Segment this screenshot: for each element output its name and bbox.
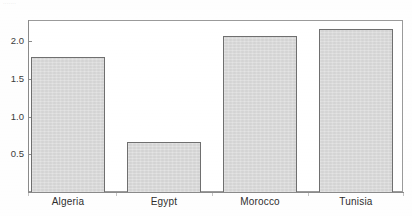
x-axis-tick-label: Morocco	[212, 196, 308, 207]
x-axis-separator-tick	[212, 193, 213, 196]
x-axis-tick-label: Egypt	[116, 196, 212, 207]
x-axis-separator-tick	[308, 193, 309, 196]
chart-figure: ······· 2.01.51.00.5 AlgeriaEgyptMorocco…	[0, 0, 412, 216]
y-axis-tick-label: 2.0	[0, 35, 24, 46]
y-axis-line	[28, 20, 29, 193]
bar-texture	[224, 37, 296, 192]
x-axis-separator-tick	[116, 193, 117, 196]
bar	[319, 29, 393, 192]
y-axis-tick-label: 1.5	[0, 73, 24, 84]
bar-texture	[32, 58, 104, 192]
y-axis-tick-label: 1.0	[0, 111, 24, 122]
bar	[127, 142, 201, 192]
y-axis-tick-label: 0.5	[0, 148, 24, 159]
bar	[223, 36, 297, 192]
caption-fragment-text: ·······	[3, 0, 49, 6]
x-axis-separator-tick	[403, 193, 404, 196]
x-axis-tick-label: Tunisia	[308, 196, 404, 207]
x-axis-line	[28, 192, 404, 193]
bar-texture	[320, 30, 392, 192]
bar-texture	[128, 143, 200, 192]
y-axis-tick-mark	[28, 41, 32, 42]
x-axis-separator-tick	[28, 193, 29, 196]
x-axis-tick-label: Algeria	[20, 196, 116, 207]
bar	[31, 57, 105, 192]
